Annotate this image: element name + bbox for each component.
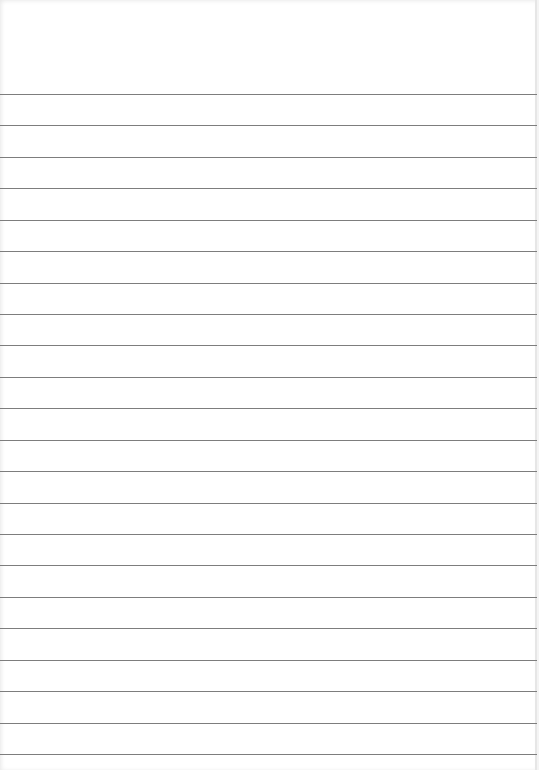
ruled-line (0, 534, 537, 535)
ruled-line (0, 377, 537, 378)
ruled-line (0, 503, 537, 504)
ruled-line (0, 628, 537, 629)
ruled-line (0, 283, 537, 284)
lined-paper-sheet (0, 0, 537, 770)
ruled-line (0, 94, 537, 95)
ruled-line (0, 754, 537, 755)
ruled-line (0, 188, 537, 189)
ruled-line (0, 723, 537, 724)
ruled-line (0, 597, 537, 598)
ruled-line (0, 314, 537, 315)
ruled-line (0, 125, 537, 126)
ruled-line (0, 157, 537, 158)
ruled-line (0, 408, 537, 409)
ruled-line (0, 251, 537, 252)
ruled-line (0, 440, 537, 441)
ruled-line (0, 691, 537, 692)
ruled-line (0, 471, 537, 472)
paper-edge (535, 0, 537, 770)
ruled-line (0, 345, 537, 346)
ruled-line (0, 220, 537, 221)
ruled-line (0, 660, 537, 661)
ruled-line (0, 565, 537, 566)
